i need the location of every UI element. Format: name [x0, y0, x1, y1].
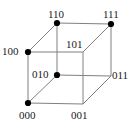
cube-edge-110-100 [28, 23, 57, 52]
cube-edge-group [28, 23, 111, 104]
cube-edge-111-101 [83, 24, 111, 52]
vertex-label-000: 000 [19, 110, 36, 121]
vertex-label-011: 011 [112, 70, 128, 81]
vertex-label-110: 110 [48, 9, 64, 20]
vertex-label-010: 010 [32, 69, 49, 80]
vertex-label-100: 100 [2, 46, 19, 57]
cube-vertex-dot-000 [25, 100, 31, 106]
cube-edge-011-001 [83, 76, 111, 104]
vertex-label-001: 001 [71, 110, 88, 121]
cube-edge-000-001 [28, 103, 83, 104]
cube-vertex-dot-110 [54, 20, 60, 26]
binary-cube-figure: 110111100101010011000001 [0, 0, 130, 131]
cube-vertex-dot-010 [54, 72, 60, 78]
cube-vertex-dot-100 [25, 49, 31, 55]
vertex-label-111: 111 [103, 9, 119, 20]
cube-edge-110-111 [57, 23, 111, 24]
vertex-label-101: 101 [66, 39, 83, 50]
cube-vertex-dot-111 [108, 21, 114, 27]
cube-edge-010-011 [57, 75, 111, 76]
